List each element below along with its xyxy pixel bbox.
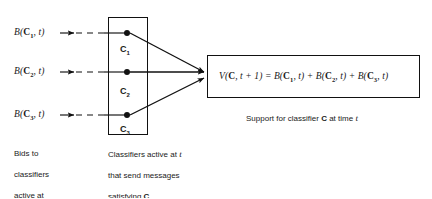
eq-term-args-2: , t)	[335, 71, 346, 81]
classifiers-caption-line-1: Classifiers active at t	[108, 149, 182, 161]
eq-term-fn-3: B(	[358, 71, 367, 81]
diagram-canvas: C1 C2 C3 B(C1, t) B(C2, t) B(C3, t) V(C,…	[0, 0, 432, 198]
eq-plus-2: +	[346, 71, 357, 81]
support-caption-pre: Support for classifier	[246, 114, 321, 123]
support-caption: Support for classifier C at time t	[246, 113, 358, 123]
bid-label-2: B(C2, t)	[14, 66, 44, 78]
classifiers-caption-line-3: satisfying C	[108, 192, 182, 199]
classifiers-caption-time: t	[179, 149, 182, 159]
eq-term-symbol-1: C	[283, 71, 290, 81]
bid-suffix-2: , t)	[34, 66, 45, 76]
bids-caption: Bids to classifiers active at t − 1	[14, 138, 49, 198]
classifier-node-2	[124, 69, 130, 75]
classifier-node-1	[124, 30, 130, 36]
bid-suffix-1: , t)	[34, 27, 45, 37]
bids-caption-line-2: classifiers	[14, 170, 49, 181]
classifier-index-1: 1	[127, 50, 130, 56]
classifiers-caption-line-2: that send messages	[108, 171, 182, 182]
support-caption-time: t	[355, 113, 358, 123]
classifier-node-3	[124, 112, 130, 118]
classifiers-caption: Classifiers active at t that send messag…	[108, 138, 182, 198]
eq-term-symbol-3: C	[367, 71, 374, 81]
eq-plus-1: +	[304, 71, 315, 81]
support-equation: V(C, t + 1) = B(C1, t) + B(C2, t) + B(C3…	[219, 71, 388, 83]
eq-term-fn-1: B(	[274, 71, 283, 81]
bid-suffix-3: , t)	[34, 109, 45, 119]
eq-lhs-args: , t + 1)	[235, 71, 262, 81]
classifier-node-label-3: C3	[120, 124, 130, 136]
classifier-node-label-1: C1	[120, 44, 130, 56]
classifiers-caption-symbol: C	[144, 192, 150, 199]
classifiers-caption-satisfy: satisfying	[108, 192, 144, 199]
eq-term-args-1: , t)	[293, 71, 304, 81]
classifier-index-3: 3	[127, 130, 130, 136]
bids-caption-line-1: Bids to	[14, 149, 49, 160]
classifier-node-label-2: C2	[120, 86, 130, 98]
eq-equals: =	[262, 71, 273, 81]
bid-label-1: B(C1, t)	[14, 27, 44, 39]
support-caption-mid: at time	[327, 114, 355, 123]
bid-prefix-3: B(	[14, 109, 23, 119]
arrow-layer	[0, 0, 432, 198]
classifiers-caption-pre: Classifiers active at	[108, 150, 179, 159]
bids-caption-line-3: active at	[14, 191, 49, 199]
eq-term-fn-2: B(	[316, 71, 325, 81]
classifier-index-2: 2	[127, 92, 130, 98]
bid-prefix-2: B(	[14, 66, 23, 76]
bid-prefix-1: B(	[14, 27, 23, 37]
eq-term-args-3: , t)	[377, 71, 388, 81]
bid-label-3: B(C3, t)	[14, 109, 44, 121]
eq-term-symbol-2: C	[325, 71, 332, 81]
eq-lhs-fn: V(	[219, 71, 228, 81]
